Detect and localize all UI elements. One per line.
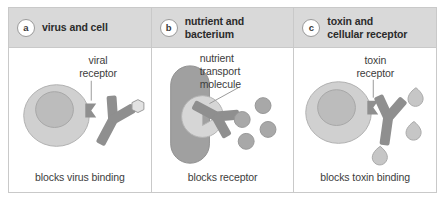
nutrient-particle-icon <box>255 98 271 114</box>
panel-a-badge: a <box>17 19 35 37</box>
panel-c-caption: blocks toxin binding <box>294 171 436 183</box>
panel-a-caption: blocks virus binding <box>9 171 151 183</box>
panel-a-title: virus and cell <box>42 21 108 34</box>
toxin-particle-icon <box>406 121 421 140</box>
nutrient-particle-icon <box>260 121 276 137</box>
panel-b-badge: b <box>160 19 178 37</box>
panel-a-body: viral receptor blocks virus binding <box>9 48 151 192</box>
panel-b-title: nutrient and bacterium <box>185 15 244 41</box>
panel-b-header: b nutrient and bacterium <box>152 8 294 48</box>
panel-b-nutrient-and-bacterium: b nutrient and bacterium <box>151 8 294 192</box>
nutrient-particle-icon <box>234 112 250 128</box>
viral-receptor-icon <box>85 104 96 118</box>
antibody-icon <box>85 91 139 152</box>
panel-b-art-label: nutrient transport molecule <box>200 52 280 90</box>
panel-b-caption: blocks receptor <box>152 171 294 183</box>
toxin-particle-icon <box>408 88 423 107</box>
nucleus-icon <box>36 92 74 128</box>
figure-panel-group: a virus and cell <box>8 7 437 193</box>
toxin-particle-icon <box>373 146 388 165</box>
panel-c-body: toxin receptor blocks toxin binding <box>294 48 436 192</box>
panel-c-art-label: toxin receptor <box>338 54 412 80</box>
panel-a-header: a virus and cell <box>9 8 151 48</box>
nutrient-particle-icon <box>238 133 254 149</box>
panel-c-title: toxin and cellular receptor <box>327 15 407 41</box>
panel-c-header: c toxin and cellular receptor <box>294 8 436 48</box>
panel-a-art-label: viral receptor <box>61 54 135 80</box>
panel-a-virus-and-cell: a virus and cell <box>9 8 151 192</box>
panel-c-badge: c <box>302 19 320 37</box>
virus-particle-icon <box>132 100 144 113</box>
panel-c-toxin-and-cellular-receptor: c toxin and cellular receptor <box>293 8 436 192</box>
nucleus-icon <box>318 90 356 126</box>
panel-b-body: nutrient transport molecule blocks recep… <box>152 48 294 192</box>
